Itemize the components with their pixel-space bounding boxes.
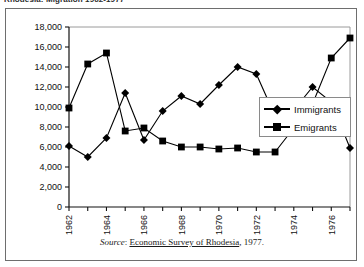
chart-figure-root: Rhodesia: Migration 1962-1977 02,0004,00… (0, 0, 364, 267)
svg-text:16,000: 16,000 (34, 42, 62, 52)
svg-text:1972: 1972 (252, 215, 262, 235)
svg-text:12,000: 12,000 (34, 82, 62, 92)
figure-border: 02,0004,0006,0008,00010,00012,00014,0001… (5, 8, 357, 261)
svg-text:8,000: 8,000 (39, 122, 62, 132)
svg-text:6,000: 6,000 (39, 142, 62, 152)
square-marker-icon (264, 121, 290, 133)
svg-text:1976: 1976 (327, 215, 337, 235)
svg-text:18,000: 18,000 (34, 22, 62, 32)
cut-off-title-strip: Rhodesia: Migration 1962-1977 (0, 0, 364, 7)
svg-text:10,000: 10,000 (34, 102, 62, 112)
legend-label-emigrants: Emigrants (294, 122, 337, 133)
source-caption: Source: Economic Survey of Rhodesia, 197… (6, 237, 358, 247)
svg-text:2,000: 2,000 (39, 182, 62, 192)
svg-text:1974: 1974 (289, 215, 299, 235)
svg-text:1962: 1962 (64, 215, 74, 235)
svg-text:1966: 1966 (139, 215, 149, 235)
svg-text:0: 0 (57, 202, 62, 212)
source-publication: Economic Survey of Rhodesia (129, 237, 239, 247)
plot-area: 02,0004,0006,0008,00010,00012,00014,0001… (6, 9, 358, 262)
source-colon: : (125, 237, 128, 247)
svg-text:1970: 1970 (214, 215, 224, 235)
source-prefix: Source (100, 237, 125, 247)
source-suffix: , 1977. (239, 237, 264, 247)
legend-item-emigrants: Emigrants (264, 118, 337, 136)
svg-text:1964: 1964 (102, 215, 112, 235)
legend-label-immigrants: Immigrants (294, 104, 341, 115)
legend-item-immigrants: Immigrants (264, 100, 341, 118)
svg-text:14,000: 14,000 (34, 62, 62, 72)
svg-text:1968: 1968 (177, 215, 187, 235)
svg-text:4,000: 4,000 (39, 162, 62, 172)
page-title: Rhodesia: Migration 1962-1977 (4, 0, 124, 4)
chart-legend: Immigrants Emigrants (259, 97, 351, 137)
diamond-marker-icon (264, 103, 290, 115)
